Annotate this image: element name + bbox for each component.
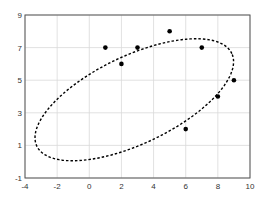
y-tick-label: 5 [18,76,23,85]
x-tick-label: 0 [87,182,92,191]
x-tick-label: 8 [216,182,221,191]
data-point [167,29,172,34]
y-tick-label: 9 [18,11,23,20]
x-tick-label: 6 [183,182,188,191]
x-tick-label: 4 [151,182,156,191]
data-point [103,45,108,50]
y-tick-label: 7 [18,44,23,53]
y-tick-label: 1 [18,141,23,150]
y-tick-label: -1 [15,174,23,183]
x-tick-label: -2 [54,182,62,191]
data-point [119,62,124,67]
x-tick-label: 10 [246,182,255,191]
y-tick-label: 3 [18,109,23,118]
confidence-ellipse [35,39,234,161]
x-tick-label: -4 [21,182,29,191]
data-point [216,94,221,99]
data-point [135,45,140,50]
chart: -4-20246810-113579 [0,0,265,198]
x-tick-label: 2 [119,182,124,191]
data-point [232,78,237,83]
axis-ticks: -4-20246810-113579 [15,11,255,191]
data-point [183,127,188,132]
data-point [199,45,204,50]
